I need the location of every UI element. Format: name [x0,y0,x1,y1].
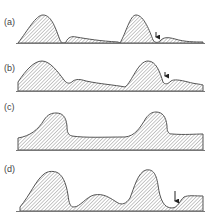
panel-label-b: (b) [4,63,15,73]
waveform-b [18,61,203,91]
panel-c: (c) [4,102,205,151]
diagram-figure: (a) (b) (c) (d) [0,0,214,219]
panel-label-c: (c) [4,102,15,112]
waveform-a [18,15,203,43]
panel-label-a: (a) [4,17,15,27]
panel-d: (d) [4,164,205,212]
panel-b: (b) [4,61,205,92]
panel-a: (a) [4,15,205,44]
waveform-c [18,112,203,150]
panel-label-d: (d) [4,164,15,174]
waveform-panels: (a) (b) (c) (d) [0,0,214,219]
waveform-d [20,170,203,211]
